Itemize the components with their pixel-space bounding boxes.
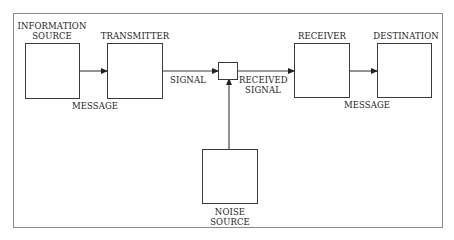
received-signal-label-line1: RECEIVED (239, 75, 287, 85)
receiver-block (294, 43, 350, 98)
noise-source-block (202, 149, 258, 204)
channel-junction-block (218, 62, 238, 80)
transmitter-label: TRANSMITTER (100, 31, 170, 41)
noise-source-label-line1: NOISE (200, 207, 260, 217)
information-source-label-line1: INFORMATION (16, 21, 88, 31)
message-in-label: MESSAGE (68, 101, 122, 111)
information-source-block (25, 43, 80, 99)
signal-label: SIGNAL (168, 75, 208, 85)
noise-source-label: NOISE SOURCE (200, 207, 260, 227)
noise-source-label-line2: SOURCE (200, 217, 260, 227)
destination-block (377, 43, 432, 98)
information-source-label-line2: SOURCE (16, 31, 88, 41)
transmitter-block (107, 43, 163, 99)
receiver-label: RECEIVER (290, 31, 354, 41)
destination-label: DESTINATION (370, 31, 442, 41)
received-signal-label: RECEIVED SIGNAL (239, 75, 287, 95)
received-signal-label-line2: SIGNAL (239, 85, 287, 95)
message-out-label: MESSAGE (340, 100, 394, 110)
information-source-label: INFORMATION SOURCE (16, 21, 88, 41)
